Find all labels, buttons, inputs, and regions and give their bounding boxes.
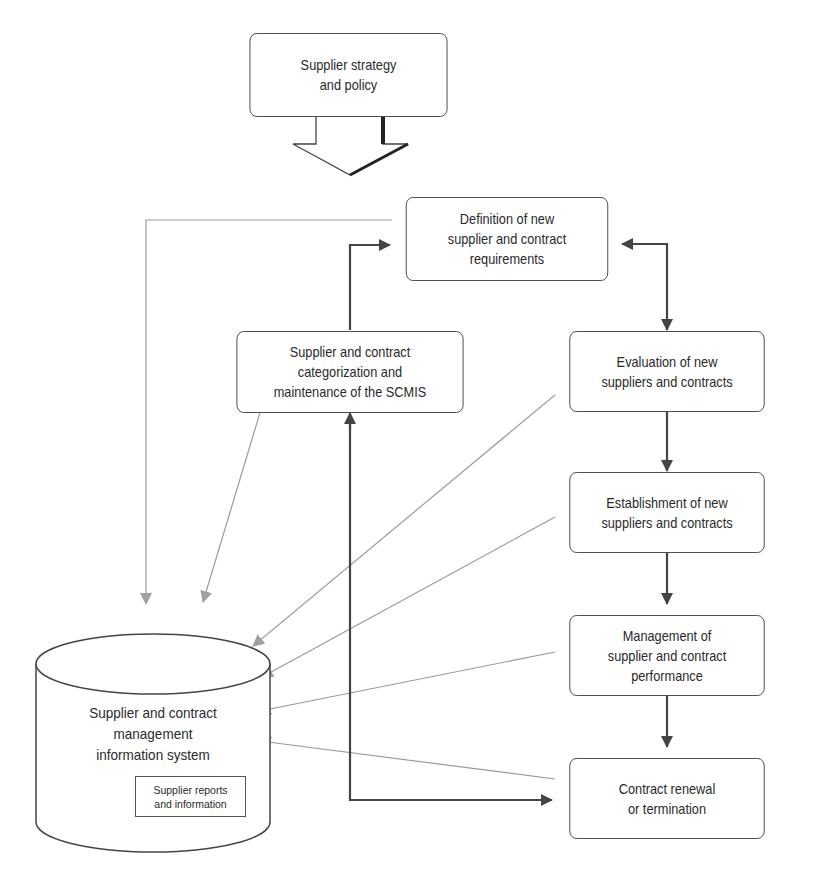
scmis-label: Supplier and contract management informa… <box>48 702 259 765</box>
node-label: Supplier and contract categorization and… <box>274 342 427 402</box>
info-flow-categorization <box>203 386 268 602</box>
info-flow-renewal <box>260 741 555 779</box>
node-management-performance: Management of supplier and contract perf… <box>569 615 764 696</box>
node-label: Evaluation of new suppliers and contract… <box>601 352 732 392</box>
clipped-caption-edge <box>0 0 822 6</box>
flow-definition-evaluation <box>666 244 667 330</box>
node-label: Supplier strategy and policy <box>301 55 397 95</box>
info-flow-establishment <box>262 517 555 677</box>
block-arrow-strategy-to-definition <box>293 116 408 175</box>
node-contract-renewal: Contract renewal or termination <box>569 758 764 839</box>
info-flow-evaluation <box>253 395 555 646</box>
node-establishment: Establishment of new suppliers and contr… <box>569 472 764 553</box>
info-flow-management <box>260 652 555 711</box>
node-label: Establishment of new suppliers and contr… <box>601 493 732 533</box>
node-supplier-strategy: Supplier strategy and policy <box>250 33 448 117</box>
node-label: Definition of new supplier and contract … <box>448 209 566 269</box>
flow-renewal-categorization <box>350 415 552 800</box>
node-categorization-scmis: Supplier and contract categorization and… <box>236 331 463 413</box>
node-definition-requirements: Definition of new supplier and contract … <box>406 197 608 281</box>
node-label: Management of supplier and contract perf… <box>608 626 726 686</box>
supplier-reports-box: Supplier reports and information <box>135 776 246 817</box>
node-evaluation: Evaluation of new suppliers and contract… <box>569 331 764 412</box>
node-label: Contract renewal or termination <box>619 779 715 819</box>
flow-categorization-to-definition <box>350 245 390 330</box>
